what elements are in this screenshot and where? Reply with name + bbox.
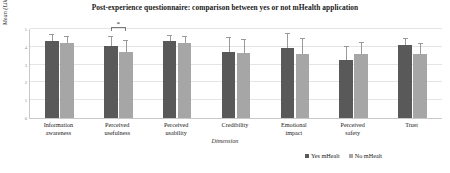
x-axis-tick-label-line: safety	[323, 129, 382, 137]
x-axis-tick-label: Perceivedusability	[147, 121, 206, 136]
error-bar-cap	[64, 36, 69, 37]
y-axis-tick-label: 1	[25, 98, 27, 103]
error-bar-cap	[182, 36, 187, 37]
error-bar	[229, 38, 230, 52]
x-axis-tick-label: Informationawareness	[29, 121, 88, 136]
y-axis-tick-label: 3	[25, 62, 27, 67]
x-axis-tick-label-line: usefulness	[88, 129, 147, 137]
error-bar-cap	[226, 37, 231, 38]
error-bar	[287, 34, 288, 48]
legend-label: No mHealt	[355, 152, 382, 159]
chart-figure: Post-experience questionnaire: compariso…	[0, 0, 450, 173]
error-bar	[302, 39, 303, 53]
bar	[296, 54, 310, 118]
gridline	[30, 46, 442, 47]
error-bar-cap	[403, 38, 408, 39]
x-axis-tick-label-line: awareness	[29, 129, 88, 137]
legend-label: Yes mHealt	[311, 152, 340, 159]
bar	[104, 46, 118, 118]
bar	[222, 52, 236, 118]
chart-title: Post-experience questionnaire: compariso…	[0, 3, 450, 12]
error-bar-cap	[123, 40, 128, 41]
error-bar	[126, 41, 127, 52]
x-axis-tick-label-line: usability	[147, 129, 206, 137]
x-axis-title: Dimension	[0, 137, 450, 144]
error-bar	[405, 39, 406, 45]
bar	[398, 45, 412, 118]
error-bar	[361, 43, 362, 54]
error-bar	[170, 36, 171, 41]
error-bar-cap	[359, 42, 364, 43]
error-bar	[346, 47, 347, 60]
bar	[413, 54, 427, 118]
error-bar	[244, 40, 245, 53]
error-bar-cap	[167, 35, 172, 36]
x-axis-tick-label-line: Credibility	[206, 121, 265, 129]
bar	[237, 53, 251, 118]
x-axis-tick-label-line: Emotional	[264, 121, 323, 129]
bar	[45, 41, 59, 118]
y-axis-title: Mean (Likert scale 5-points)	[1, 0, 8, 38]
x-axis-tick-label-line: Information	[29, 121, 88, 129]
error-bar	[52, 35, 53, 40]
gridline	[30, 28, 442, 29]
x-axis-tick-label-line: Perceived	[147, 121, 206, 129]
x-axis-tick-label-line: Trust	[382, 121, 441, 129]
error-bar	[111, 37, 112, 46]
y-axis-tick-label: 0	[25, 116, 27, 121]
x-axis-tick-label: Emotionalimpact	[264, 121, 323, 136]
legend-swatch	[349, 154, 353, 158]
x-axis-tick-label: Trust	[382, 121, 441, 129]
x-axis-tick-label: Credibility	[206, 121, 265, 129]
bar	[339, 60, 353, 118]
error-bar	[185, 37, 186, 43]
error-bar	[67, 37, 68, 43]
bar	[281, 48, 295, 118]
x-axis-tick-label-line: Perceived	[88, 121, 147, 129]
bar	[178, 43, 192, 118]
error-bar-cap	[285, 33, 290, 34]
bar	[119, 52, 133, 118]
y-axis-tick-label: 4	[25, 44, 27, 49]
error-bar-cap	[49, 34, 54, 35]
legend-entry[interactable]: No mHealt	[349, 152, 382, 159]
bar	[354, 54, 368, 118]
x-axis-tick-label: Perceivedusefulness	[88, 121, 147, 136]
x-axis-tick-label-line: Perceived	[323, 121, 382, 129]
bar	[60, 43, 74, 118]
error-bar-cap	[344, 46, 349, 47]
error-bar-cap	[108, 36, 113, 37]
x-axis-tick-label-line: impact	[264, 129, 323, 137]
plot-area: 012345 *	[29, 29, 442, 119]
bar	[163, 41, 177, 118]
y-axis-tick-label: 2	[25, 80, 27, 85]
significance-marker: *	[111, 21, 126, 27]
y-axis-tick-label: 5	[25, 27, 27, 32]
legend-swatch	[305, 154, 309, 158]
x-axis-tick-label: Perceivedsafety	[323, 121, 382, 136]
error-bar-cap	[300, 38, 305, 39]
error-bar-cap	[241, 39, 246, 40]
chart-legend: Yes mHealtNo mHealt	[305, 152, 382, 159]
error-bar-cap	[418, 43, 423, 44]
error-bar	[420, 44, 421, 55]
legend-entry[interactable]: Yes mHealt	[305, 152, 340, 159]
